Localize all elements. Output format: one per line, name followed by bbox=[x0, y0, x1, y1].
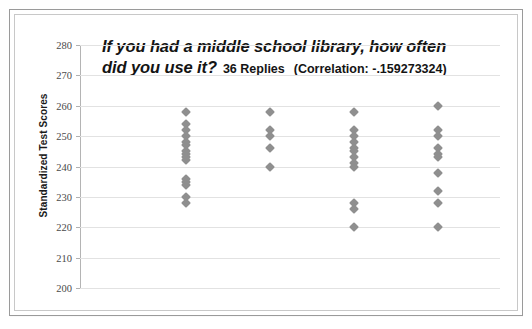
data-point-marker bbox=[349, 107, 359, 117]
data-point-marker bbox=[265, 143, 275, 153]
y-axis-tick-label: 220 bbox=[56, 222, 72, 233]
y-axis-title: Standardized Test Scores bbox=[38, 81, 49, 231]
data-point-marker bbox=[265, 131, 275, 141]
data-point-marker bbox=[349, 222, 359, 232]
y-axis-tick-label: 240 bbox=[56, 161, 72, 172]
gridline bbox=[80, 45, 500, 46]
data-point-marker bbox=[433, 186, 443, 196]
data-point-marker bbox=[433, 198, 443, 208]
data-point-marker bbox=[433, 168, 443, 178]
data-point-marker bbox=[433, 101, 443, 111]
y-axis-tick-label: 270 bbox=[56, 70, 72, 81]
y-axis-tick-mark bbox=[76, 227, 80, 228]
y-axis-tick-label: 260 bbox=[56, 100, 72, 111]
y-axis-tick-mark bbox=[76, 288, 80, 289]
y-axis-tick-label: 250 bbox=[56, 131, 72, 142]
plot-area: 280270260250240230220210200 bbox=[80, 45, 500, 288]
scatter-chart: If you had a middle school library, how … bbox=[14, 14, 518, 311]
scanned-page: If you had a middle school library, how … bbox=[0, 0, 532, 329]
data-point-marker bbox=[181, 107, 191, 117]
gridline bbox=[80, 288, 500, 289]
y-axis-tick-mark bbox=[76, 106, 80, 107]
y-axis-tick-mark bbox=[76, 45, 80, 46]
y-axis-tick-mark bbox=[76, 258, 80, 259]
data-point-marker bbox=[265, 107, 275, 117]
y-axis-tick-label: 200 bbox=[56, 283, 72, 294]
y-axis-tick-label: 210 bbox=[56, 252, 72, 263]
data-point-marker bbox=[265, 162, 275, 172]
y-axis-tick-mark bbox=[76, 197, 80, 198]
y-axis-tick-label: 230 bbox=[56, 191, 72, 202]
y-axis-tick-label: 280 bbox=[56, 40, 72, 51]
y-axis-tick-mark bbox=[76, 167, 80, 168]
data-point-marker bbox=[433, 222, 443, 232]
data-point-marker bbox=[433, 131, 443, 141]
y-axis-tick-mark bbox=[76, 75, 80, 76]
gridline bbox=[80, 75, 500, 76]
y-axis-tick-mark bbox=[76, 136, 80, 137]
data-point-marker bbox=[349, 204, 359, 214]
gridline bbox=[80, 258, 500, 259]
